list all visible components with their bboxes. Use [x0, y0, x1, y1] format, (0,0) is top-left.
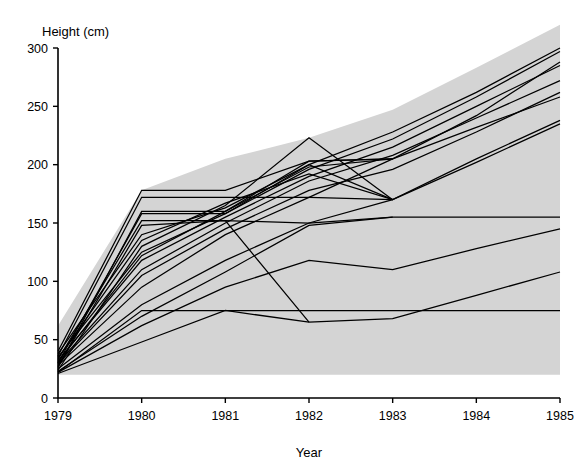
x-tick-label: 1981: [211, 409, 239, 423]
chart-page: 0501001502002503001979198019811982198319…: [0, 0, 579, 471]
y-tick-label: 250: [27, 100, 48, 114]
x-tick-label: 1982: [295, 409, 323, 423]
x-tick-label: 1980: [128, 409, 156, 423]
y-tick-label: 100: [27, 275, 48, 289]
y-axis-title: Height (cm): [42, 24, 109, 39]
y-tick-label: 300: [27, 42, 48, 56]
y-tick-label: 0: [41, 392, 48, 406]
height-vs-year-line-chart: 0501001502002503001979198019811982198319…: [0, 0, 579, 471]
y-tick-label: 200: [27, 158, 48, 172]
x-tick-label: 1983: [379, 409, 407, 423]
x-axis-title: Year: [296, 445, 323, 460]
y-tick-label: 150: [27, 217, 48, 231]
x-tick-label: 1985: [546, 409, 574, 423]
x-tick-label: 1979: [44, 409, 72, 423]
x-tick-label: 1984: [462, 409, 490, 423]
y-tick-label: 50: [34, 333, 48, 347]
